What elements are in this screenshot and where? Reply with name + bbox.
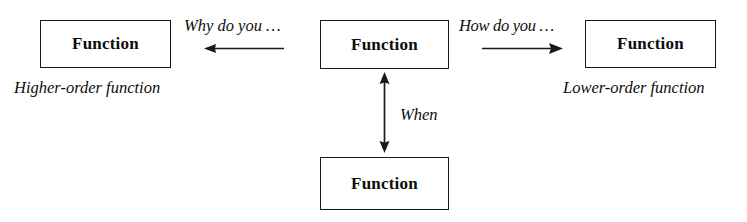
- function-box-label: Function: [72, 34, 139, 54]
- edge-label-how-do-you: How do you …: [459, 16, 554, 36]
- diagram-canvas: Function Function Function Function High…: [0, 0, 747, 222]
- function-box-bottom[interactable]: Function: [320, 157, 449, 210]
- function-box-higher-order[interactable]: Function: [40, 20, 171, 68]
- function-box-label: Function: [351, 35, 418, 55]
- caption-higher-order-function: Higher-order function: [14, 78, 160, 98]
- function-box-label: Function: [617, 34, 684, 54]
- arrow-center-to-bottom: [380, 72, 390, 153]
- function-box-lower-order[interactable]: Function: [585, 20, 716, 68]
- arrow-center-to-higher-order: [204, 44, 284, 53]
- function-box-label: Function: [351, 174, 418, 194]
- edge-label-when: When: [400, 105, 438, 125]
- function-box-center[interactable]: Function: [320, 20, 449, 69]
- edge-label-why-do-you: Why do you …: [184, 16, 281, 36]
- caption-lower-order-function: Lower-order function: [563, 78, 705, 98]
- arrow-center-to-lower-order: [482, 43, 563, 54]
